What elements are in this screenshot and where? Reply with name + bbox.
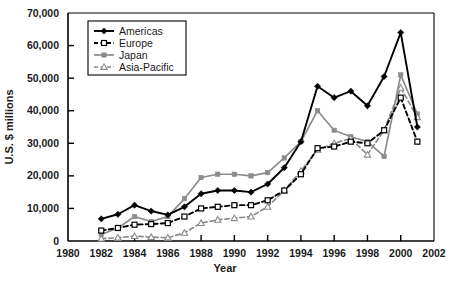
data-point-marker (199, 175, 203, 179)
data-point-marker (399, 73, 403, 77)
data-point-marker (132, 222, 137, 227)
legend-label: Japan (119, 49, 148, 61)
x-tick-label: 2000 (389, 247, 413, 259)
data-point-marker (332, 144, 337, 149)
y-tick-label: 30,000 (27, 137, 59, 149)
data-point-marker (315, 146, 320, 151)
data-point-marker (282, 156, 286, 160)
y-tick-label: 50,000 (27, 72, 59, 84)
data-point-marker (365, 141, 370, 146)
data-point-marker (265, 170, 269, 174)
x-tick-label: 1988 (189, 247, 213, 259)
data-point-marker (102, 53, 106, 57)
data-point-marker (165, 221, 170, 226)
data-point-marker (149, 222, 154, 227)
x-tick-label: 1994 (289, 247, 313, 259)
data-point-marker (415, 139, 420, 144)
chart-canvas: 010,00020,00030,00040,00050,00060,00070,… (0, 0, 451, 281)
data-point-marker (99, 228, 104, 233)
x-tick-label: 2002 (422, 247, 446, 259)
data-point-marker (249, 174, 253, 178)
x-tick-label: 1992 (256, 247, 280, 259)
y-tick-label: 10,000 (27, 202, 59, 214)
data-point-marker (249, 203, 254, 208)
data-point-marker (102, 41, 107, 46)
data-point-marker (315, 109, 319, 113)
x-tick-label: 1984 (123, 247, 147, 259)
x-tick-label: 1990 (223, 247, 247, 259)
y-tick-label: 20,000 (27, 169, 59, 181)
data-point-marker (232, 203, 237, 208)
legend-label: Americas (119, 25, 163, 37)
data-point-marker (199, 206, 204, 211)
data-point-marker (382, 128, 387, 133)
data-point-marker (215, 204, 220, 209)
x-axis-title: Year (213, 262, 237, 274)
data-point-marker (298, 172, 303, 177)
x-tick-label: 1980 (56, 247, 80, 259)
legend-label: Asia-Pacific (119, 61, 174, 73)
x-tick-label: 1986 (156, 247, 180, 259)
data-point-marker (216, 172, 220, 176)
data-point-marker (348, 139, 353, 144)
y-tick-label: 0 (53, 235, 59, 247)
data-point-marker (382, 154, 386, 158)
data-point-marker (182, 214, 187, 219)
data-point-marker (282, 188, 287, 193)
y-tick-label: 60,000 (27, 39, 59, 51)
legend-label: Europe (119, 37, 153, 49)
data-point-marker (132, 214, 136, 218)
y-tick-label: 70,000 (27, 7, 59, 19)
data-point-marker (265, 198, 270, 203)
data-point-marker (332, 128, 336, 132)
chart-legend: AmericasEuropeJapanAsia-Pacific (88, 21, 186, 75)
data-point-marker (398, 95, 403, 100)
x-tick-label: 1998 (356, 247, 380, 259)
data-point-marker (232, 172, 236, 176)
y-axis-title: U.S. $ millions (3, 89, 15, 164)
data-point-marker (115, 225, 120, 230)
y-tick-label: 40,000 (27, 104, 59, 116)
data-point-marker (182, 196, 186, 200)
x-tick-label: 1996 (323, 247, 347, 259)
line-chart: 010,00020,00030,00040,00050,00060,00070,… (0, 0, 451, 281)
x-tick-label: 1982 (90, 247, 114, 259)
